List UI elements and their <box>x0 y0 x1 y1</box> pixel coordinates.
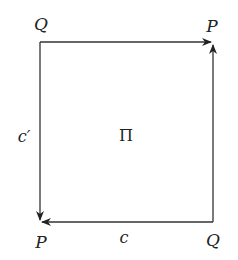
label-top-right: P <box>205 16 218 36</box>
label-left-edge: c′ <box>18 127 31 146</box>
label-top-left: Q <box>34 14 48 34</box>
commutative-square-diagram: Q P P Q c′ c Π <box>0 0 238 260</box>
label-center: Π <box>119 126 133 145</box>
label-bottom-edge: c <box>120 228 129 247</box>
label-bottom-left: P <box>34 232 47 252</box>
label-bottom-right: Q <box>206 230 220 250</box>
